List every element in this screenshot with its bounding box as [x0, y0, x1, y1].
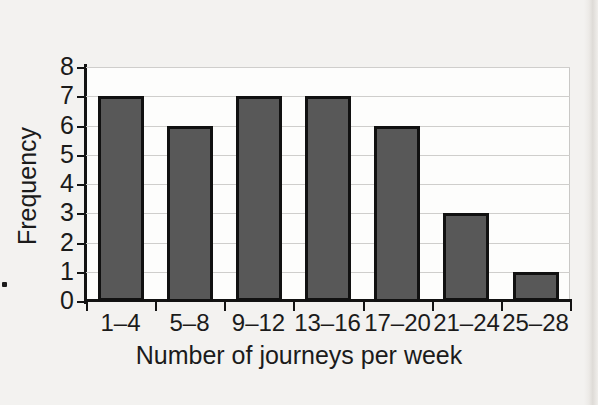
y-axis-tick-label: 0 — [48, 288, 74, 313]
y-axis-tick-label: 7 — [48, 83, 74, 108]
bar-chart-figure: 012345678 1–45–89–1213–1617–2021–2425–28… — [0, 0, 598, 405]
page-edge-shadow — [584, 0, 598, 405]
x-axis-tick-label: 25–28 — [501, 309, 570, 337]
y-axis-tick-label: 5 — [48, 142, 74, 167]
y-axis-tick-label: 1 — [48, 259, 74, 284]
y-axis-tick-label: 8 — [48, 54, 74, 79]
x-axis-tick-label: 1–4 — [86, 309, 155, 337]
y-axis-tick-label: 2 — [48, 230, 74, 255]
x-axis-tick-label: 17–20 — [363, 309, 432, 337]
y-axis-tick-label: 4 — [48, 171, 74, 196]
x-axis-tick — [570, 301, 572, 311]
x-axis-title: Number of journeys per week — [0, 340, 598, 370]
x-axis-tick-label: 21–24 — [432, 309, 501, 337]
x-axis-tick-label: 5–8 — [155, 309, 224, 337]
scan-artifact-mark — [2, 282, 7, 287]
y-axis-tick-label: 6 — [48, 113, 74, 138]
x-axis-tick-label: 13–16 — [293, 309, 362, 337]
x-axis-tick-label: 9–12 — [224, 309, 293, 337]
y-axis-tick-label: 3 — [48, 200, 74, 225]
y-axis-title: Frequency — [13, 96, 41, 276]
